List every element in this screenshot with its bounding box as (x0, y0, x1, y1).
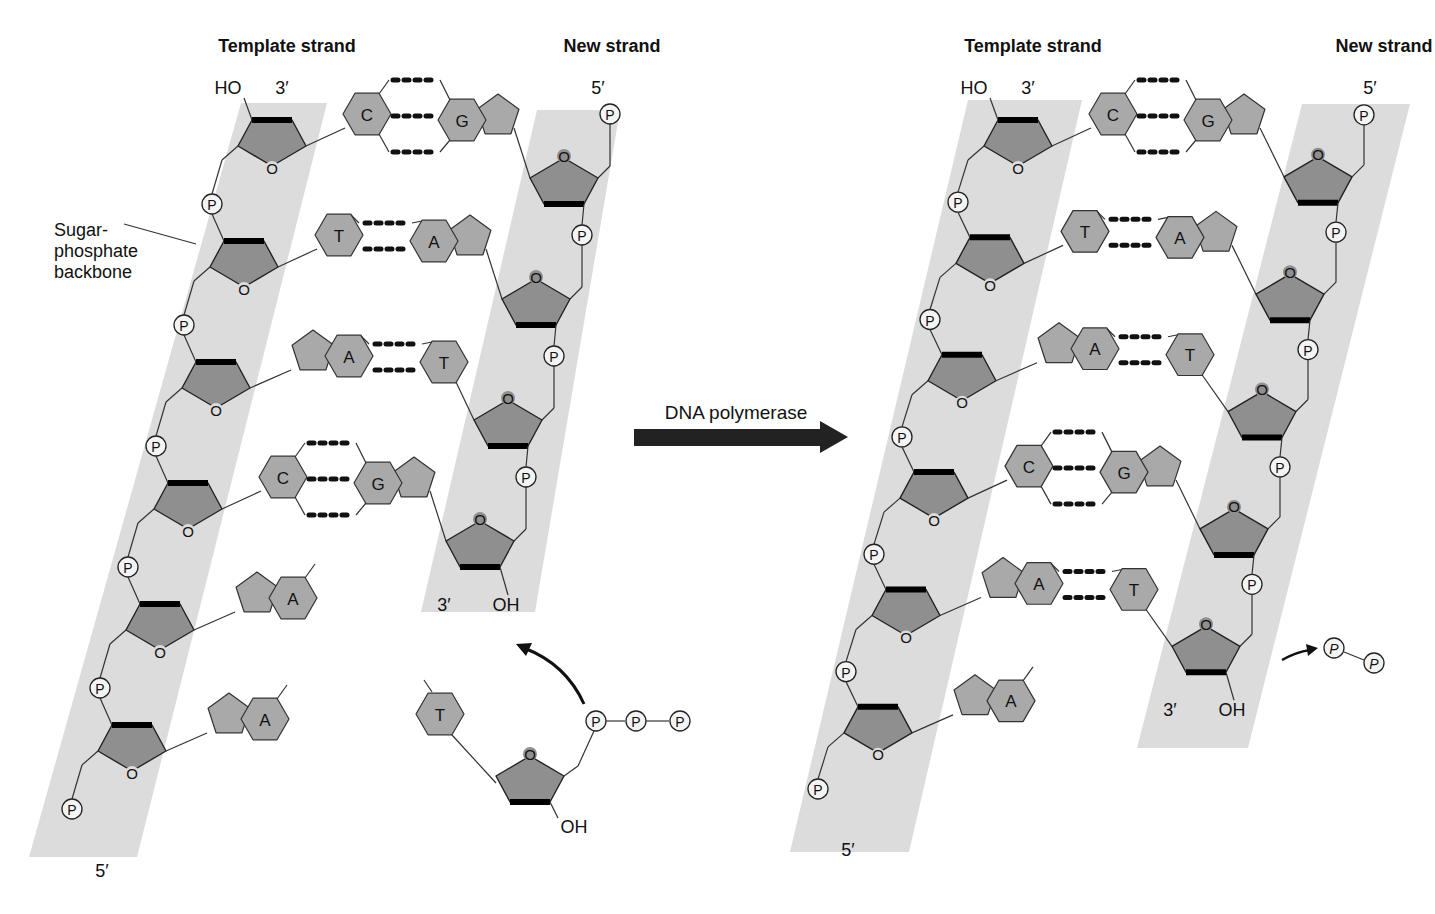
three-prime-label: 3′ (437, 595, 451, 615)
base-letter: A (259, 711, 271, 730)
five-prime-label: 5′ (841, 840, 855, 860)
base-letter: G (1201, 112, 1214, 131)
pyrimidine-base: T (416, 693, 464, 735)
bond-line (1125, 134, 1135, 152)
hydroxyl-label: HO (961, 78, 988, 98)
purine-five-ring (982, 557, 1024, 597)
pyrimidine-base: C (1089, 93, 1137, 135)
purine-five-ring (292, 330, 334, 370)
five-prime-label: 5′ (1363, 78, 1377, 98)
phosphate-group: P (174, 315, 194, 335)
purine-base: A (954, 675, 1035, 722)
phosphate-group: P (670, 711, 690, 731)
bond-line (1344, 652, 1364, 660)
phosphate-group: P (90, 678, 110, 698)
phosphate-group: P (572, 225, 592, 245)
phosphate-label: P (675, 714, 684, 730)
phosphate-label: P (67, 802, 76, 818)
ring-oxygen-label: O (524, 746, 536, 763)
bond-line (1102, 432, 1112, 452)
phosphate-group: P (864, 544, 884, 564)
bond-line (1186, 140, 1196, 152)
bond-line (295, 497, 305, 515)
phosphate-group: P (600, 104, 620, 124)
backbone-callout-text: phosphate (54, 241, 138, 261)
phosphate-group: P (626, 711, 646, 731)
bond-line (1125, 80, 1135, 94)
phosphate-label: P (151, 439, 160, 455)
pyrimidine-base: C (343, 93, 391, 135)
base-letter: G (455, 112, 468, 131)
five-prime-label: 5′ (95, 861, 109, 881)
phosphate-label: P (1359, 108, 1368, 124)
phosphate-label: P (521, 470, 530, 486)
right-arrow-head (820, 421, 848, 453)
ring-oxygen-label: O (182, 523, 194, 540)
right-arrow-icon (634, 429, 822, 446)
phosphate-label: P (179, 318, 188, 334)
phosphate-label: P (1369, 656, 1379, 672)
bond-line (440, 140, 450, 152)
ring-oxygen-label: O (266, 160, 278, 177)
bond-line (356, 503, 366, 515)
base-letter: A (287, 590, 299, 609)
ring-oxygen-label: O (928, 512, 940, 529)
three-prime-label: 3′ (275, 78, 289, 98)
purine-base: A (292, 330, 373, 377)
phosphate-label: P (207, 197, 216, 213)
phosphate-label: P (869, 547, 878, 563)
phosphate-group: P (1364, 653, 1384, 673)
phosphate-group: P (1326, 222, 1346, 242)
ring-oxygen-label: O (1200, 616, 1212, 633)
purine-five-ring (208, 693, 250, 733)
base-letter: A (1033, 575, 1045, 594)
pyrimidine-base: C (1005, 445, 1053, 487)
phosphate-group: P (920, 310, 940, 330)
ring-oxygen-label: O (872, 746, 884, 763)
backbone-callout: Sugar-phosphatebackbone (54, 220, 196, 282)
bond-line (277, 685, 287, 699)
base-letter: T (1185, 346, 1195, 365)
bond-line (295, 443, 305, 457)
phosphate-group: P (836, 662, 856, 682)
purine-five-ring (236, 572, 278, 612)
bond-line (1102, 492, 1112, 504)
hydroxyl-label: HO (215, 78, 242, 98)
phosphate-label: P (1303, 343, 1312, 359)
phosphate-group: P (146, 436, 166, 456)
base-letter: A (1005, 692, 1017, 711)
ring-oxygen-label: O (530, 269, 542, 286)
base-letter: C (361, 106, 373, 125)
purine-base: G (354, 457, 435, 504)
purine-five-ring (477, 94, 519, 134)
dna-polymerase-arrow: DNA polymerase (634, 402, 848, 453)
bond-line (356, 443, 366, 463)
phosphate-group: P (808, 779, 828, 799)
ring-oxygen-label: O (1312, 146, 1324, 163)
phosphate-group: P (202, 194, 222, 214)
purine-five-ring (449, 215, 491, 255)
phosphate-group: P (1324, 638, 1344, 658)
three-prime-label: 3′ (1021, 78, 1035, 98)
bond-line (424, 680, 432, 692)
sugar-ring (496, 756, 564, 802)
base-letter: A (1089, 340, 1101, 359)
base-letter: C (1023, 458, 1035, 477)
phosphate-label: P (605, 107, 614, 123)
bond-line (564, 766, 578, 776)
ring-oxygen-label: O (1256, 381, 1268, 398)
base-letter: T (435, 706, 445, 725)
released-pyrophosphate: PP (1282, 638, 1384, 673)
new-strand-title: New strand (563, 36, 660, 56)
phosphate-group: P (586, 711, 606, 731)
phosphate-label: P (841, 665, 850, 681)
phosphate-label: P (591, 714, 600, 730)
arrowhead-icon (1306, 644, 1318, 656)
phosphate-label: P (1247, 577, 1256, 593)
phosphate-group: P (1242, 574, 1262, 594)
pyrimidine-base: T (1166, 334, 1214, 376)
base-letter: T (334, 227, 344, 246)
hydroxyl-label: OH (1219, 700, 1246, 720)
hydroxyl-label: OH (561, 817, 588, 837)
template-strand-title: Template strand (964, 36, 1102, 56)
